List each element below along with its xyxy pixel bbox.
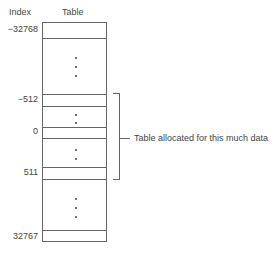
row-divider xyxy=(43,230,106,231)
ellipsis-dot xyxy=(75,75,77,77)
row-divider xyxy=(43,106,106,107)
row-divider xyxy=(43,179,106,180)
index-label-min: −32768 xyxy=(0,24,38,34)
ellipsis-dot xyxy=(75,149,77,151)
ellipsis-dot xyxy=(75,66,77,68)
ellipsis-dot xyxy=(75,216,77,218)
row-divider xyxy=(43,138,106,139)
index-header: Index xyxy=(9,7,31,17)
ellipsis-dot xyxy=(75,198,77,200)
allocation-label: Table allocated for this much data xyxy=(134,133,268,143)
ellipsis-dot xyxy=(75,57,77,59)
index-label-neg512: −512 xyxy=(0,94,38,104)
ellipsis-dot xyxy=(75,114,77,116)
index-label-511: 511 xyxy=(0,167,38,177)
row-divider xyxy=(43,94,106,95)
index-label-max: 32767 xyxy=(0,231,38,241)
table-header: Table xyxy=(62,7,84,17)
ellipsis-dot xyxy=(75,207,77,209)
table-box xyxy=(42,22,107,242)
row-divider xyxy=(43,38,106,39)
ellipsis-dot xyxy=(75,122,77,124)
row-divider xyxy=(43,167,106,168)
ellipsis-dot xyxy=(75,158,77,160)
index-label-zero: 0 xyxy=(0,126,38,136)
bracket-pointer-line xyxy=(120,138,130,139)
row-divider xyxy=(43,127,106,128)
allocation-bracket xyxy=(113,93,120,180)
